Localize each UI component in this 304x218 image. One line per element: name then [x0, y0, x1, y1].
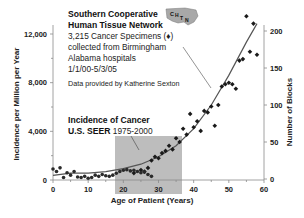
specimen-leader-line [183, 47, 211, 88]
specimen-point [188, 112, 193, 117]
y-axis-left-title: Incidence per Million per Year [12, 48, 21, 161]
seer-point [111, 173, 115, 177]
seer-point [69, 173, 73, 177]
seer-point [58, 166, 62, 170]
seer-point [72, 170, 76, 174]
seer-point [76, 175, 80, 179]
specimen-point [248, 49, 253, 54]
specimens-count: 3,215 Cancer Specimens (♦) [68, 31, 173, 41]
y-right-tick-label: 100 [270, 101, 283, 110]
svg-text:C: C [170, 11, 174, 17]
y-axis-right-title: Number of Blocks [285, 77, 294, 146]
org-name-line1: Southern Cooperative [68, 9, 158, 19]
svg-text:N: N [185, 17, 189, 23]
seer-point [132, 168, 136, 172]
seer-point [136, 170, 140, 174]
specimen-point [251, 21, 256, 26]
seer-point [93, 173, 97, 177]
specimen-point [184, 132, 189, 137]
seer-annotation: Incidence of Cancer U.S. SEER 1975-2000 [68, 115, 153, 136]
seer-title: Incidence of Cancer [68, 115, 150, 125]
collected-from: collected from Birmingham [68, 42, 166, 52]
y-left-tick-label: 4,000 [28, 127, 47, 136]
svg-text:T: T [180, 15, 183, 21]
seer-point [86, 176, 90, 180]
x-tick-label: 0 [51, 185, 55, 194]
chart: 010203040506004,0008,00012,0000501001502… [0, 0, 304, 218]
seer-point [143, 170, 147, 174]
seer-point [129, 169, 133, 173]
seer-point [107, 175, 111, 179]
seer-point [118, 170, 122, 174]
y-right-tick-label: 0 [270, 175, 274, 184]
chtn-us-map-logo-icon: C H T N [166, 8, 198, 25]
x-tick-label: 40 [189, 185, 197, 194]
seer-point [100, 173, 104, 177]
x-tick-label: 50 [225, 185, 233, 194]
org-name-line2: Human Tissue Network [68, 20, 163, 30]
x-tick-label: 60 [260, 185, 268, 194]
seer-point [83, 175, 87, 179]
specimen-point [212, 123, 217, 128]
seer-point [150, 175, 154, 179]
seer-point [125, 168, 129, 172]
chtn-annotation: Southern Cooperative Human Tissue Networ… [68, 9, 179, 88]
data-credit: Data provided by Katherine Sexton [68, 79, 179, 88]
seer-point [79, 176, 83, 180]
seer-point [62, 176, 66, 180]
y-left-tick-label: 0 [43, 176, 47, 185]
specimen-point [198, 129, 203, 134]
specimen-point [244, 14, 249, 19]
svg-text:H: H [175, 12, 179, 18]
specimen-point [234, 86, 239, 91]
y-right-tick-label: 150 [270, 64, 283, 73]
seer-point [122, 168, 126, 172]
hospitals: Alabama hospitals [68, 53, 136, 63]
x-tick-label: 30 [154, 185, 162, 194]
date-range: 1/1/00-5/3/05 [68, 64, 117, 74]
specimen-point [255, 52, 260, 57]
specimen-point [216, 103, 221, 108]
y-left-tick-label: 12,000 [24, 30, 47, 39]
seer-point [97, 175, 101, 179]
seer-point [51, 167, 55, 171]
x-axis-title: Age of Patient (Years) [111, 196, 194, 205]
seer-point [65, 171, 69, 175]
x-tick-label: 10 [84, 185, 92, 194]
specimen-point [195, 119, 200, 124]
seer-point [139, 171, 143, 175]
y-right-tick-label: 50 [270, 138, 278, 147]
y-left-tick-label: 8,000 [28, 78, 47, 87]
specimen-point [181, 126, 186, 131]
y-right-tick-label: 200 [270, 27, 283, 36]
seer-subtitle: U.S. SEER 1975-2000 [68, 126, 153, 136]
seer-point [90, 176, 94, 180]
x-tick-label: 20 [119, 185, 127, 194]
seer-point [146, 173, 150, 177]
seer-point [55, 170, 59, 174]
seer-point [115, 172, 119, 176]
seer-point [104, 174, 108, 178]
